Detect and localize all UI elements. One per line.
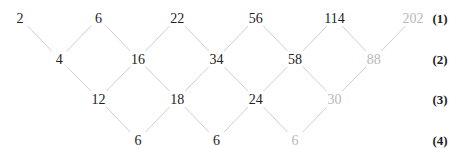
connector-line	[67, 67, 91, 91]
connector-line	[303, 67, 327, 91]
row-label: (1)	[432, 11, 447, 26]
value-node: 12	[92, 92, 106, 107]
connector-line	[381, 26, 405, 51]
connector-line	[185, 67, 209, 91]
row-label: (3)	[432, 92, 447, 107]
connector-line	[106, 107, 130, 132]
value-node: 6	[134, 133, 141, 148]
value-node: 2	[17, 11, 24, 26]
connector-line	[185, 26, 209, 51]
connector-line	[28, 26, 52, 51]
row-label: (2)	[432, 52, 447, 67]
connector-line	[67, 26, 91, 51]
connector-line	[224, 26, 248, 51]
value-node: 34	[210, 52, 224, 67]
row-label: (4)	[432, 133, 447, 148]
value-node: 6	[292, 133, 299, 148]
connector-line	[146, 67, 170, 91]
value-node: 58	[288, 52, 302, 67]
connector-line	[342, 67, 366, 91]
value-node: 30	[327, 92, 341, 107]
connector-line	[303, 107, 327, 132]
connector-line	[146, 26, 170, 51]
connector-line	[342, 26, 366, 51]
connector-line	[263, 26, 287, 51]
connector-line	[303, 26, 327, 51]
connector-line	[264, 67, 288, 91]
connector-line	[146, 107, 170, 132]
value-node: 6	[213, 133, 220, 148]
connector-lines	[28, 26, 406, 132]
connector-line	[224, 67, 248, 91]
value-node: 16	[131, 52, 145, 67]
value-node: 24	[249, 92, 263, 107]
value-nodes: 26225611420241634588812182430666	[17, 11, 424, 148]
connector-line	[106, 26, 130, 51]
value-node: 22	[170, 11, 184, 26]
connector-line	[263, 107, 287, 132]
value-node: 88	[367, 52, 381, 67]
connector-line	[185, 107, 209, 132]
connector-line	[224, 107, 248, 132]
value-node: 202	[403, 11, 424, 26]
value-node: 114	[324, 11, 344, 26]
value-node: 18	[170, 92, 184, 107]
value-node: 4	[56, 52, 63, 67]
value-node: 56	[249, 11, 263, 26]
difference-triangle-diagram: 26225611420241634588812182430666 (1)(2)(…	[0, 0, 464, 148]
row-labels: (1)(2)(3)(4)	[432, 11, 447, 148]
value-node: 6	[95, 11, 102, 26]
connector-line	[106, 67, 130, 91]
